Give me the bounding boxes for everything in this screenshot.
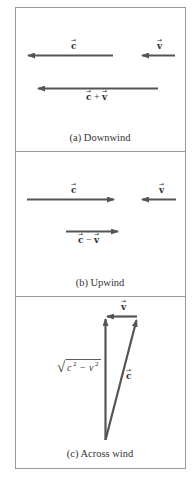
label-minus: −: [86, 234, 92, 245]
vector-v-label: v: [158, 185, 165, 195]
vector-v-label: v: [120, 302, 127, 312]
minus-sign: −: [80, 362, 86, 373]
panel-c-across-wind: → v → c √ c 2 − v 2 (c) Across wind: [57, 297, 137, 460]
panel-b-upwind: → c → v → c − → v (b) Upwind: [27, 180, 176, 289]
label-v: v: [93, 235, 100, 245]
exponent-2: 2: [95, 360, 99, 368]
term-c: c: [67, 362, 72, 373]
vector-diagram: → c → v → c + → v (a) Downwind → c → v →…: [0, 0, 195, 477]
vector-v-label: v: [156, 41, 163, 51]
label-c: c: [78, 235, 84, 245]
vector-c-arrow: [106, 320, 137, 440]
caption-a: (a) Downwind: [70, 132, 132, 144]
caption-c: (c) Across wind: [67, 448, 134, 460]
caption-b: (b) Upwind: [76, 277, 125, 289]
vector-c-label: c: [71, 41, 77, 51]
term-v: v: [89, 362, 94, 373]
figure-frame: [16, 8, 186, 469]
label-plus: +: [94, 91, 100, 102]
radical-sign-icon: √: [57, 359, 66, 375]
exponent-2: 2: [73, 360, 77, 368]
vector-c-label: c: [126, 371, 132, 381]
vector-c-label: c: [71, 185, 77, 195]
label-v: v: [101, 92, 108, 102]
panel-a-downwind: → c → v → c + → v (a) Downwind: [28, 36, 175, 144]
resultant-magnitude-label: √ c 2 − v 2: [57, 359, 101, 375]
label-c: c: [86, 92, 92, 102]
